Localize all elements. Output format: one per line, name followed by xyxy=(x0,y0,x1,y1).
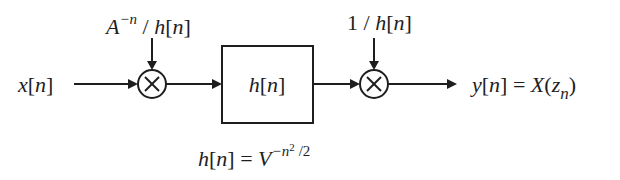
multiplier1-control-label: A−n / h[n] xyxy=(104,11,191,39)
filter-block-label: h[n] xyxy=(249,72,286,97)
multiplier1-to-filter-arrow xyxy=(166,79,222,89)
multiplier1-icon xyxy=(138,70,166,98)
input-arrow xyxy=(74,79,138,89)
filter-to-multiplier2-arrow xyxy=(313,79,360,89)
multiplier2-control-label: 1 / h[n] xyxy=(347,10,412,35)
input-label: x[n] xyxy=(17,72,53,97)
multiplier1-control-arrow xyxy=(147,38,157,70)
chirp-z-block-diagram: x[n] A−n / h[n] h[n] 1 / h[n] xyxy=(0,0,620,180)
multiplier2-control-arrow xyxy=(369,38,379,70)
filter-block: h[n] xyxy=(222,46,313,123)
chirp-equation: h[n] = V−n2/2 xyxy=(198,141,310,171)
multiplier2-icon xyxy=(360,70,388,98)
output-arrow xyxy=(388,79,457,89)
output-label: y[n] = X(zn) xyxy=(470,72,576,103)
